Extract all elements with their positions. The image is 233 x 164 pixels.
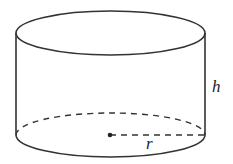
cylinder-diagram: h r xyxy=(0,0,233,164)
bottom-ellipse-front xyxy=(16,135,205,157)
radius-label: r xyxy=(146,134,153,153)
top-ellipse xyxy=(16,11,205,55)
center-point xyxy=(108,133,113,138)
height-label: h xyxy=(212,77,221,96)
bottom-ellipse-back-dashed xyxy=(16,113,205,135)
